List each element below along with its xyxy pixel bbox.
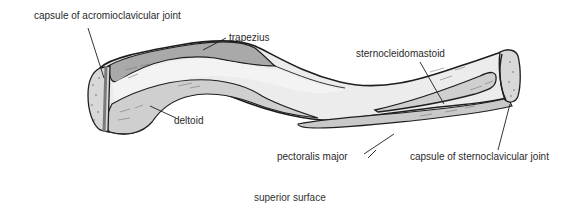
- acromioclavicular-capsule-band: [104, 66, 106, 132]
- figure-caption: superior surface: [254, 192, 326, 204]
- label-acromioclavicular-capsule: capsule of acromioclavicular joint: [34, 10, 181, 22]
- label-deltoid: deltoid: [174, 115, 203, 127]
- label-sternoclavicular-capsule: capsule of sternoclavicular joint: [410, 151, 549, 163]
- label-trapezius: trapezius: [229, 32, 270, 44]
- label-pectoralis-major: pectoralis major: [277, 151, 348, 163]
- leader-sternoclavicular: [498, 104, 510, 150]
- leader-pectoralis: [368, 150, 376, 158]
- label-sternocleidomastoid: sternocleidomastoid: [356, 48, 445, 60]
- clavicle-illustration: [0, 0, 583, 209]
- leader-pectoralis-b: [364, 134, 394, 154]
- clavicle-diagram: capsule of acromioclavicular joint trape…: [0, 0, 583, 209]
